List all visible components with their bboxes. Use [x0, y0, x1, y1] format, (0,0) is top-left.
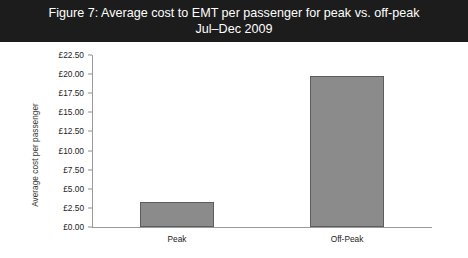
chart-canvas: Average cost per passenger £22.50£20.00£…: [0, 42, 468, 258]
x-axis-tick-labels: PeakOff-Peak: [92, 231, 432, 251]
y-axis-tick-label: £12.50: [59, 126, 84, 136]
y-axis-tick-label: £15.00: [59, 107, 84, 117]
bar-peak: [140, 202, 214, 227]
figure-container: Figure 7: Average cost to EMT per passen…: [0, 0, 468, 258]
figure-title-banner: Figure 7: Average cost to EMT per passen…: [0, 0, 468, 42]
y-axis-tick-label: £22.50: [59, 50, 84, 60]
y-axis-title: Average cost per passenger: [28, 90, 42, 220]
y-axis-tick-label: £17.50: [59, 88, 84, 98]
y-axis-tick-label: £10.00: [59, 146, 84, 156]
x-axis-tick-label: Peak: [168, 234, 187, 244]
y-axis-tick-label: £0.00: [63, 222, 84, 232]
bar-off-peak: [310, 76, 384, 227]
plot-area: [92, 55, 432, 227]
figure-title-line-2: Jul–Dec 2009: [195, 21, 272, 37]
y-axis-tick-label: £5.00: [63, 184, 84, 194]
y-axis-tick-labels: £22.50£20.00£17.50£15.00£12.50£10.00£7.5…: [44, 42, 88, 258]
x-axis-tick-label: Off-Peak: [331, 234, 364, 244]
y-axis-tick-label: £20.00: [59, 69, 84, 79]
x-axis-line: [92, 227, 432, 228]
y-axis-tick-label: £2.50: [63, 203, 84, 213]
y-axis-tick-label: £7.50: [63, 165, 84, 175]
figure-title-line-1: Figure 7: Average cost to EMT per passen…: [48, 5, 419, 21]
y-axis-title-label: Average cost per passenger: [30, 103, 40, 207]
